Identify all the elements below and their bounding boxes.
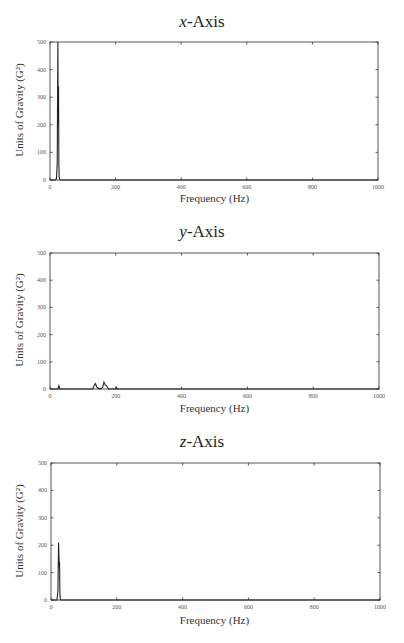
svg-text:1000: 1000 [374, 604, 386, 610]
y-tick: 100 [37, 359, 379, 365]
y-tick: 200 [37, 332, 379, 338]
x-tick: 400 [178, 463, 187, 610]
y-tick: 200 [37, 122, 378, 128]
svg-text:400: 400 [38, 487, 47, 493]
y-tick: 300 [38, 515, 380, 521]
y-tick: 100 [37, 149, 378, 155]
svg-text:100: 100 [37, 149, 46, 155]
y-tick: 300 [37, 94, 378, 100]
svg-text:200: 200 [111, 184, 120, 190]
x-tick: 200 [112, 463, 121, 610]
svg-text:200: 200 [37, 332, 46, 338]
svg-text:200: 200 [37, 122, 46, 128]
svg-text:100: 100 [37, 359, 46, 365]
svg-text:400: 400 [177, 184, 186, 190]
svg-text:200: 200 [112, 604, 121, 610]
svg-text:800: 800 [310, 604, 319, 610]
svg-text:400: 400 [37, 277, 46, 283]
svg-text:0: 0 [49, 184, 52, 190]
svg-text:0: 0 [43, 386, 46, 392]
plot-area: 020040060080010000100200300400500 [37, 250, 385, 399]
x-tick: 400 [177, 253, 186, 399]
y-tick: 200 [38, 542, 380, 548]
x-tick: 800 [308, 42, 317, 190]
svg-text:400: 400 [37, 67, 46, 73]
svg-text:300: 300 [37, 94, 46, 100]
svg-text:600: 600 [242, 184, 251, 190]
y-tick: 400 [38, 487, 380, 493]
y-tick: 300 [37, 304, 379, 310]
plot-area: 020040060080010000100200300400500 [38, 460, 386, 610]
y-tick: 100 [38, 570, 380, 576]
y-tick: 400 [37, 67, 378, 73]
svg-text:0: 0 [49, 393, 52, 399]
x-tick: 400 [177, 42, 186, 190]
svg-text:200: 200 [111, 393, 120, 399]
svg-text:0: 0 [50, 604, 53, 610]
svg-text:0: 0 [44, 597, 47, 603]
svg-text:0: 0 [43, 177, 46, 183]
svg-text:100: 100 [38, 570, 47, 576]
svg-text:500: 500 [38, 460, 47, 466]
data-series-line [50, 382, 379, 389]
svg-text:400: 400 [177, 393, 186, 399]
x-tick: 600 [244, 463, 253, 610]
x-tick: 800 [310, 463, 319, 610]
plot-frame [50, 42, 378, 180]
x-tick: 600 [243, 253, 252, 399]
svg-text:600: 600 [243, 393, 252, 399]
data-series-line [51, 542, 380, 600]
svg-text:300: 300 [38, 515, 47, 521]
x-tick: 200 [111, 42, 120, 190]
y-tick: 400 [37, 277, 379, 283]
svg-text:500: 500 [37, 250, 46, 256]
plot-frame [50, 253, 379, 389]
x-tick: 600 [242, 42, 251, 190]
data-series-line [50, 42, 378, 180]
plot-frame [51, 463, 380, 600]
svg-text:600: 600 [244, 604, 253, 610]
svg-text:1000: 1000 [373, 393, 385, 399]
svg-text:300: 300 [37, 304, 46, 310]
svg-text:1000: 1000 [372, 184, 384, 190]
svg-text:500: 500 [37, 39, 46, 45]
svg-text:400: 400 [178, 604, 187, 610]
x-tick: 200 [111, 253, 120, 399]
plot-area: 020040060080010000100200300400500 [37, 39, 384, 190]
svg-text:800: 800 [309, 393, 318, 399]
svg-text:800: 800 [308, 184, 317, 190]
svg-text:200: 200 [38, 542, 47, 548]
chart-canvas: 0200400600800100001002003004005000200400… [0, 0, 404, 643]
x-tick: 800 [309, 253, 318, 399]
